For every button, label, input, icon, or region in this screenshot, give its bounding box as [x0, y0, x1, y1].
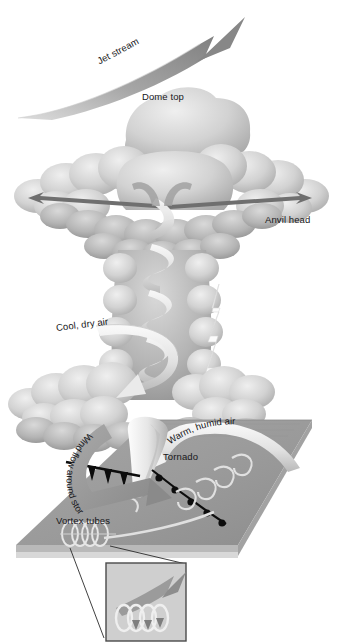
label-tornado: Tornado: [163, 452, 198, 462]
label-anvil-head: Anvil head: [265, 215, 310, 225]
diagram-canvas: Warm, humid air Wind flow around storm J…: [0, 0, 341, 643]
vortex-tube-inset-box: [106, 563, 186, 641]
label-dome-top: Dome top: [142, 92, 184, 102]
label-vortex-tubes: Vortex tubes: [56, 516, 110, 526]
